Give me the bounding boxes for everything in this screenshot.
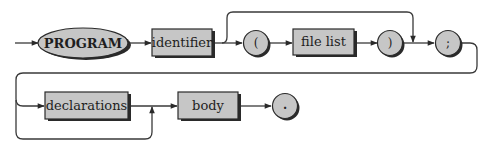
node-lparen: ( <box>244 31 271 58</box>
lparen-label: ( <box>254 36 259 50</box>
declarations-label: declarations <box>46 98 127 113</box>
node-body: body <box>178 92 241 121</box>
node-program: PROGRAM <box>38 28 131 60</box>
semicolon-label: ; <box>446 36 450 50</box>
rparen-label: ) <box>388 36 393 50</box>
identifier-label: identifier <box>152 35 213 50</box>
node-rparen: ) <box>378 31 405 58</box>
syntax-diagram: PROGRAM identifier ( file list ) ; decla… <box>0 0 492 144</box>
body-label: body <box>192 98 224 113</box>
node-semicolon: ; <box>436 31 463 58</box>
period-label: . <box>283 98 287 112</box>
program-keyword-label: PROGRAM <box>44 36 122 51</box>
node-period: . <box>273 94 300 121</box>
node-identifier: identifier <box>152 29 215 58</box>
file-list-label: file list <box>301 34 347 49</box>
node-declarations: declarations <box>45 92 131 121</box>
node-file-list: file list <box>293 29 357 57</box>
